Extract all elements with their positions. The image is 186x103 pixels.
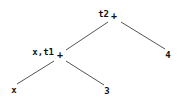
node-annotation-x-t1: x,t1 — [32, 48, 54, 57]
expression-tree-figure: t2 + x,t1 + 4 x 3 — [0, 0, 186, 103]
edge-inner-to-leaf-x — [17, 61, 54, 84]
node-annotation-t2: t2 — [98, 10, 109, 19]
node-leaf-x: x — [11, 86, 16, 95]
edge-root-to-leaf-four — [121, 22, 165, 49]
node-root-operator: + — [111, 11, 117, 21]
node-inner-operator: + — [57, 50, 63, 60]
node-leaf-three: 3 — [104, 87, 109, 96]
node-leaf-four: 4 — [165, 51, 170, 60]
tree-edges-layer — [0, 0, 186, 103]
edge-inner-to-leaf-three — [66, 61, 104, 85]
edge-root-to-inner — [66, 22, 108, 50]
